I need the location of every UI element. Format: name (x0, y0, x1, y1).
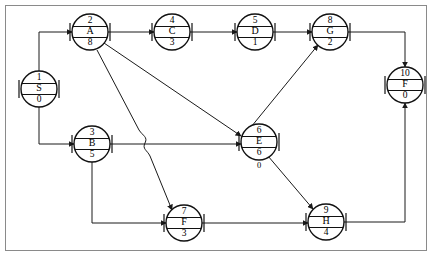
node-top-value: 10 (400, 68, 410, 78)
edge-a-e (104, 43, 241, 136)
node-top-value: 7 (182, 206, 187, 216)
node-top-value: 4 (170, 15, 175, 25)
node-bottom-value: 3 (170, 37, 175, 47)
node-c[interactable]: 4C3 (152, 14, 192, 50)
node-top-value: 3 (90, 127, 95, 137)
edge-s-b (39, 104, 74, 144)
node-bottom-value: 6 (257, 147, 262, 157)
node-label: S (36, 82, 42, 93)
node-h[interactable]: 9H4 (306, 204, 346, 240)
node-top-value: 1 (37, 72, 42, 82)
diagram-frame (6, 6, 427, 251)
node-top-value: 9 (324, 205, 329, 215)
node-label: D (251, 25, 258, 36)
node-a[interactable]: 2A8 (70, 14, 110, 50)
node-bottom-value: 3 (182, 228, 187, 238)
node-bottom-value: 4 (324, 227, 329, 237)
edge-e-h (268, 156, 313, 209)
node-bottom-value: 2 (328, 37, 333, 47)
edge-e-g (251, 45, 318, 127)
node-label: F (402, 78, 408, 89)
node-f7[interactable]: 7F3 (164, 205, 204, 241)
node-d[interactable]: 5D1 (235, 14, 275, 50)
node-layer: 1S02A84C35D18G210F03B56E607F39H4 (19, 14, 425, 241)
node-top-value: 6 (257, 125, 262, 135)
node-label: E (256, 135, 262, 146)
node-label: B (89, 137, 96, 148)
node-bottom-value: 8 (88, 37, 93, 47)
node-label: G (326, 25, 333, 36)
node-label: A (86, 25, 94, 36)
node-e[interactable]: 6E60 (239, 124, 279, 170)
node-b[interactable]: 3B5 (72, 126, 112, 162)
node-bottom-value: 1 (253, 37, 258, 47)
network-diagram: 1S02A84C35D18G210F03B56E607F39H4 (0, 0, 432, 256)
node-top-value: 8 (328, 15, 333, 25)
node-top-value: 2 (88, 15, 93, 25)
node-bottom-value: 5 (90, 149, 95, 159)
node-extra-value: 0 (257, 160, 261, 170)
edge-a-f7 (97, 50, 172, 210)
node-bottom-value: 0 (37, 94, 42, 104)
node-s[interactable]: 1S0 (19, 71, 59, 107)
node-g[interactable]: 8G2 (310, 14, 350, 50)
edge-s-a (39, 32, 72, 74)
edge-h-f10 (344, 103, 405, 222)
edge-g-f10 (348, 32, 405, 67)
diagram-canvas: 1S02A84C35D18G210F03B56E607F39H4 (0, 0, 432, 256)
node-top-value: 5 (253, 15, 258, 25)
edge-b-f7 (92, 162, 166, 223)
node-label: C (169, 25, 176, 36)
node-f10[interactable]: 10F0 (385, 67, 425, 103)
node-bottom-value: 0 (403, 90, 408, 100)
node-label: H (322, 215, 329, 226)
node-label: F (181, 216, 187, 227)
